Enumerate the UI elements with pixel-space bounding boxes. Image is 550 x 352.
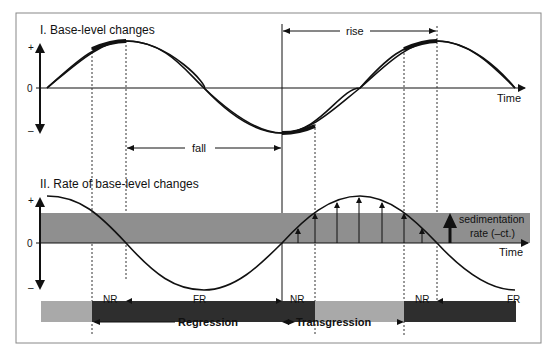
diagram-base-level-changes: I. Base-level changes + 0 – Time — [0, 0, 550, 352]
nr-label-1: NR — [103, 294, 117, 305]
regression-transgression-bars: NR FR NR NR FR Regression Transgression — [41, 294, 520, 328]
regression-label: Regression — [178, 316, 238, 328]
panel2-plus: + — [28, 195, 34, 206]
panel1-plus: + — [28, 42, 34, 53]
sedimentation-label-2: rate (–ct.) — [470, 227, 515, 239]
fall-label: fall — [192, 142, 206, 154]
fr-label-1: FR — [193, 294, 206, 305]
panel2-zero: 0 — [27, 238, 33, 249]
panel1-time-label: Time — [497, 92, 521, 104]
transgression-label: Transgression — [296, 316, 371, 328]
fall-dimension: fall — [127, 142, 281, 154]
panel2-time-label: Time — [499, 246, 523, 258]
rise-label: rise — [346, 25, 364, 37]
panel-rate-of-base-level-changes: II. Rate of base-level changes + 0 – Tim… — [27, 177, 530, 293]
panel1-title: I. Base-level changes — [40, 23, 155, 37]
highlight-segment-1 — [92, 41, 126, 49]
panel1-zero: 0 — [27, 83, 33, 94]
highlight-segment-2 — [282, 126, 315, 133]
base-level-curve — [47, 41, 515, 133]
panel2-minus: – — [28, 282, 34, 293]
fr-label-2: FR — [507, 294, 520, 305]
bar-light-1 — [41, 301, 92, 322]
nr-label-3: NR — [415, 294, 429, 305]
sedimentation-label-1: sedimentation — [459, 213, 525, 225]
nr-label-2: NR — [290, 294, 304, 305]
rise-dimension: rise — [283, 25, 436, 37]
panel1-minus: – — [28, 125, 34, 136]
highlight-segment-3 — [404, 41, 437, 49]
panel2-title: II. Rate of base-level changes — [40, 177, 199, 191]
